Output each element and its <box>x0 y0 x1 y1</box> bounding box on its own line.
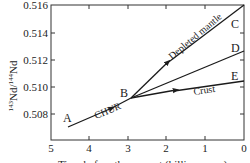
point-label-e: E <box>231 69 238 83</box>
point-label-d: D <box>231 41 240 55</box>
line-b-d <box>131 51 244 98</box>
x-tick-label: 1 <box>202 142 208 154</box>
depleted-mantle-label: Depleted mantle <box>166 10 224 61</box>
x-tick-label: 4 <box>86 142 92 154</box>
point-label-a: A <box>63 111 72 125</box>
y-tick-label: 0.514 <box>23 27 48 39</box>
y-tick-label: 0.512 <box>23 54 48 66</box>
x-axis-label: Time before the present (billion years) <box>58 158 227 163</box>
x-tick-labels: 5 4 3 2 1 0 <box>48 142 247 154</box>
point-labels: A B C D E <box>63 17 240 125</box>
x-tick-label: 0 <box>241 142 247 154</box>
x-tick-label: 2 <box>163 142 169 154</box>
x-axis <box>89 5 205 140</box>
y-tick-label: 0.516 <box>23 0 48 11</box>
y-axis <box>51 33 244 114</box>
y-tick-labels: 0.516 0.514 0.512 0.510 0.508 <box>23 0 48 120</box>
x-tick-label: 3 <box>125 142 131 154</box>
chur-label: CHUR <box>93 100 123 121</box>
crust-label: Crust <box>193 83 216 97</box>
x-tick-label: 5 <box>48 142 54 154</box>
point-label-b: B <box>120 86 128 100</box>
y-axis-label: 143Nd/144Nd <box>7 60 19 111</box>
nd-isotope-evolution-diagram: 0.516 0.514 0.512 0.510 0.508 5 4 3 2 1 … <box>0 0 250 163</box>
y-tick-label: 0.508 <box>23 108 48 120</box>
y-tick-label: 0.510 <box>23 81 48 93</box>
point-label-c: C <box>231 17 239 31</box>
